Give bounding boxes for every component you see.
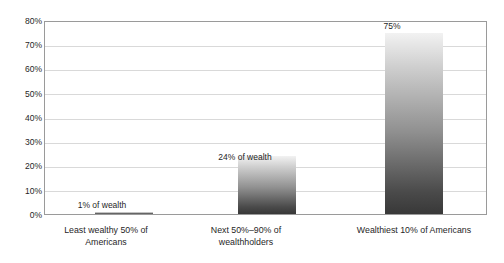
y-axis-tick-label: 60% xyxy=(2,65,42,74)
x-axis-category-line: wealthholders xyxy=(185,237,307,249)
bar-value-label: 24% of wealth xyxy=(187,152,303,162)
y-axis-tick-label: 80% xyxy=(2,17,42,26)
x-axis-category-line: Americans xyxy=(34,237,178,249)
y-axis-tick-label: 70% xyxy=(2,41,42,50)
x-axis-category-line: Least wealthy 50% of xyxy=(34,225,178,237)
y-axis-tick-label: 50% xyxy=(2,90,42,99)
x-axis-category-label-1: Next 50%–90% of wealthholders xyxy=(185,225,307,248)
bar-value-label: 75% xyxy=(334,21,450,31)
bar-wealthiest-10-percent xyxy=(385,33,443,214)
y-axis-tick-label: 30% xyxy=(2,138,42,147)
y-axis-tick-label: 20% xyxy=(2,162,42,171)
x-axis-category-line: Next 50%–90% of xyxy=(185,225,307,237)
plot-area xyxy=(44,21,487,215)
bar-next-50-90-percent xyxy=(238,156,296,214)
x-axis-category-label-2: Wealthiest 10% of Americans xyxy=(319,225,504,237)
x-axis-category-label-0: Least wealthy 50% of Americans xyxy=(34,225,178,248)
bar-chart: 80% 70% 60% 50% 40% 30% 20% 10% 0% 1% of… xyxy=(0,0,504,263)
y-axis-tick-label: 10% xyxy=(2,187,42,196)
y-axis-tick-label: 40% xyxy=(2,114,42,123)
bar-value-label: 1% of wealth xyxy=(44,200,160,210)
y-axis-tick-label: 0% xyxy=(2,211,42,220)
x-axis-category-line: Wealthiest 10% of Americans xyxy=(319,225,504,237)
bar-least-wealthy-50-percent xyxy=(95,212,153,214)
